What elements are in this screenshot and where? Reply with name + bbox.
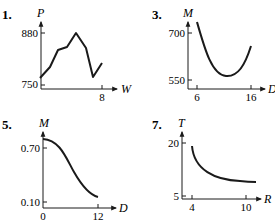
- y-tick-label: 0.10: [21, 196, 41, 208]
- chart-5: 5. M 0.70 0.10 0 12 D: [2, 116, 128, 222]
- chart-1: 1. P 880 750 8 W: [2, 6, 132, 103]
- y-tick-label: 5: [174, 190, 180, 202]
- chart-7: 7. T 20 5 4 10 R: [152, 116, 272, 213]
- y-axis-label: T: [178, 116, 186, 130]
- problem-number: 5.: [2, 117, 12, 132]
- y-tick-label: 880: [22, 27, 39, 39]
- x-axis-label: D: [118, 201, 128, 215]
- data-curve: [43, 139, 98, 197]
- x-axis-label: D: [267, 82, 275, 96]
- y-tick-label: 750: [22, 78, 39, 90]
- x-axis-label: R: [263, 192, 272, 206]
- problem-number: 1.: [2, 7, 12, 22]
- x-tick-label: 10: [241, 201, 253, 213]
- data-curve: [192, 146, 256, 182]
- y-axis-label: M: [182, 6, 194, 20]
- y-axis-label: M: [38, 116, 50, 130]
- x-tick-label: 4: [189, 201, 195, 213]
- y-tick-label: 550: [169, 74, 186, 86]
- y-tick-label: 20: [168, 137, 180, 149]
- data-curve: [197, 22, 251, 76]
- y-tick-label: 0.70: [21, 142, 41, 154]
- problem-number: 7.: [152, 117, 162, 132]
- x-tick-label: 8: [99, 91, 105, 103]
- x-tick-label: 16: [246, 91, 258, 103]
- chart-3: 3. M 700 550 6 16 D: [152, 6, 275, 103]
- data-line: [40, 33, 102, 78]
- y-axis-label: P: [36, 6, 45, 20]
- x-tick-label: 0: [40, 210, 46, 222]
- figure-canvas: 1. P 880 750 8 W 3. M 700 550 6 16 D 5. …: [0, 0, 275, 223]
- y-tick-label: 700: [169, 27, 186, 39]
- x-axis-label: W: [121, 82, 132, 96]
- x-tick-label: 6: [194, 91, 200, 103]
- x-tick-label: 12: [93, 210, 104, 222]
- problem-number: 3.: [152, 7, 162, 22]
